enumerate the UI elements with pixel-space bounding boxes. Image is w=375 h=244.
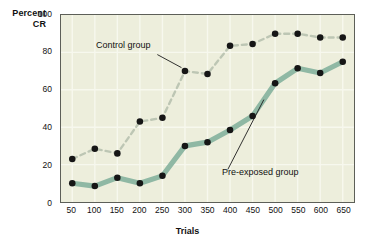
y-tick-label: 0 bbox=[30, 199, 52, 208]
chart-figure: Percent CR 020406080100 5010015020025030… bbox=[0, 0, 375, 244]
y-tick-label: 60 bbox=[30, 85, 52, 94]
y-tick-label: 40 bbox=[30, 123, 52, 132]
x-tick-label: 650 bbox=[331, 206, 357, 215]
y-tick-label: 100 bbox=[30, 10, 52, 19]
y-tick-label: 20 bbox=[30, 161, 52, 170]
x-axis-title: Trials bbox=[0, 226, 375, 236]
annotation-control-group: Control group bbox=[96, 40, 151, 50]
y-tick-label: 80 bbox=[30, 47, 52, 56]
annotation-pre-exposed-group: Pre-exposed group bbox=[222, 167, 299, 177]
y-axis-title-line-2: CR bbox=[0, 19, 46, 30]
